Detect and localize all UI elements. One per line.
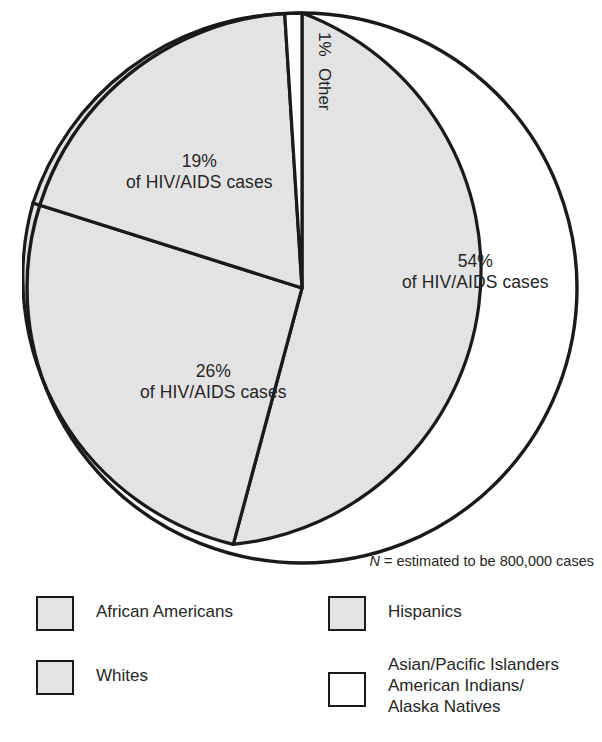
legend-swatch-other (328, 672, 366, 707)
sample-size-note: N = estimated to be 800,000 cases (369, 552, 594, 570)
legend-item-hispanics[interactable]: Hispanics (328, 596, 462, 631)
legend-item-other[interactable]: Asian/Pacific Islanders American Indians… (328, 654, 559, 717)
legend-label-whites: Whites (96, 660, 148, 686)
chart-legend: African Americans Whites Hispanics Asian… (0, 592, 602, 738)
sample-size-text: = estimated to be 800,000 cases (380, 553, 594, 569)
legend-label-african-americans: African Americans (96, 596, 233, 622)
legend-swatch-whites (36, 660, 74, 695)
legend-swatch-african-americans (36, 596, 74, 631)
pie-svg (22, 8, 582, 568)
legend-item-whites[interactable]: Whites (36, 660, 148, 695)
pie-chart-figure: 54% of HIV/AIDS cases 19% of HIV/AIDS ca… (0, 0, 602, 742)
legend-label-hispanics: Hispanics (388, 596, 462, 622)
legend-item-african-americans[interactable]: African Americans (36, 596, 233, 631)
legend-swatch-hispanics (328, 596, 366, 631)
sample-size-symbol: N (369, 553, 379, 569)
legend-label-other: Asian/Pacific Islanders American Indians… (388, 654, 559, 717)
pie-chart-graphic: 54% of HIV/AIDS cases 19% of HIV/AIDS ca… (22, 8, 582, 568)
